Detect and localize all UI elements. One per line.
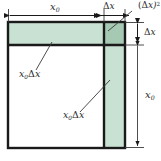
label-top-dim-dx: Δx [103,2,115,11]
square-expansion-diagram: x0 Δx (Δx)2 x0Δx x0Δx Δx x0 [0,0,161,161]
label-x-char: x) [148,0,157,10]
region-top-strip [8,22,104,45]
region-right-strip [104,45,125,148]
label-exponent: 2 [157,1,161,7]
label-top-strip-area: x0Δx [19,69,40,81]
label-corner-dx-squared: (Δx)2 [138,1,160,10]
label-x-char: x [79,109,84,120]
label-right-strip-area: x0Δx [63,110,84,122]
label-x-subscript: 0 [56,6,60,13]
label-right-dim-dx: Δx [144,28,156,37]
label-x-char: x [110,1,115,11]
label-top-dim-x0: x0 [50,2,60,13]
label-x-char: x [35,68,40,79]
label-x-subscript: 0 [151,94,155,101]
label-x-char: x [151,27,156,37]
region-main-square [8,45,104,148]
label-right-dim-x0: x0 [145,90,155,101]
delta-glyph: Δ [72,109,79,120]
delta-glyph: Δ [28,68,35,79]
